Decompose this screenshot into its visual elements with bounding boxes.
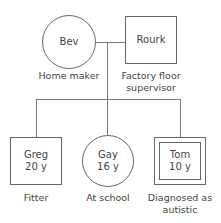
child-name: Greg bbox=[24, 149, 48, 161]
sibship-line bbox=[36, 99, 181, 100]
child-line-greg bbox=[36, 99, 37, 137]
child-node-greg: Greg 20 y bbox=[10, 137, 62, 185]
child-name: Tom bbox=[170, 149, 190, 161]
child-age: 16 y bbox=[97, 161, 119, 173]
child-role-gay: At school bbox=[86, 192, 130, 204]
child-line-tom bbox=[180, 99, 181, 137]
parent-role-bev: Home maker bbox=[38, 70, 99, 82]
child-node-gay: Gay 16 y bbox=[82, 135, 134, 187]
parent-name: Rourk bbox=[137, 34, 166, 46]
descent-line bbox=[107, 42, 108, 99]
child-role-tom: Diagnosed as autistic bbox=[148, 192, 212, 216]
child-role-greg: Fitter bbox=[24, 192, 49, 204]
parent-node-bev: Bev bbox=[42, 15, 96, 69]
child-name: Gay bbox=[98, 149, 118, 161]
parent-name: Bev bbox=[60, 36, 79, 48]
parent-node-rourk: Rourk bbox=[125, 16, 177, 64]
child-line-gay bbox=[107, 99, 108, 135]
child-age: 20 y bbox=[25, 161, 47, 173]
child-node-tom: Tom 10 y bbox=[154, 137, 206, 185]
parent-role-rourk: Factory floor supervisor bbox=[121, 70, 180, 94]
marriage-line bbox=[96, 42, 125, 43]
child-age: 10 y bbox=[169, 161, 191, 173]
